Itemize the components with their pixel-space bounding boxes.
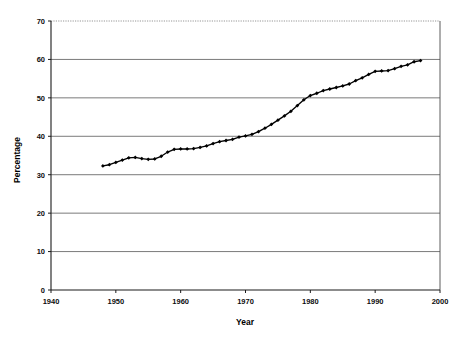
data-point-marker [211,142,215,146]
series-markers-percentage [101,59,422,168]
data-point-marker [237,135,241,139]
data-point-marker [198,146,202,150]
x-tick-label-2000: 2000 [432,297,449,306]
data-point-marker [386,69,390,73]
data-point-marker [218,140,222,144]
y-tick-label-50: 50 [37,94,45,103]
data-point-marker [244,134,248,138]
y-tick-label-40: 40 [37,132,45,141]
x-tick-label-1960: 1960 [172,297,189,306]
data-point-marker [114,161,118,165]
x-tick-label-1940: 1940 [43,297,60,306]
x-axis-ticks: 1940195019601970198019902000 [43,290,449,306]
y-tick-label-0: 0 [41,286,45,295]
x-tick-label-1970: 1970 [237,297,254,306]
data-point-marker [140,157,144,161]
data-point-marker [380,69,384,73]
data-point-marker [341,84,345,88]
data-point-marker [179,147,183,151]
data-point-marker [334,86,338,90]
data-point-marker [399,64,403,68]
x-tick-label-1980: 1980 [302,297,319,306]
data-point-marker [172,147,176,151]
data-point-marker [328,87,332,91]
y-tick-label-10: 10 [37,247,45,256]
data-point-marker [231,137,235,141]
data-point-marker [153,157,157,161]
series-line-percentage [103,61,421,166]
y-axis-ticks: 010203040506070 [37,17,51,295]
y-tick-label-70: 70 [37,17,45,26]
x-axis-title: Year [236,317,255,327]
data-point-marker [185,147,189,151]
data-point-marker [393,67,397,71]
y-tick-label-20: 20 [37,209,45,218]
data-point-marker [321,89,325,93]
line-chart: 010203040506070 194019501960197019801990… [0,0,473,345]
gridlines [51,59,440,251]
data-point-marker [250,132,254,136]
y-axis-title: Percentage [12,137,22,183]
x-tick-label-1990: 1990 [367,297,384,306]
y-tick-label-30: 30 [37,171,45,180]
data-point-marker [192,147,196,151]
data-point-marker [107,163,111,167]
x-tick-label-1950: 1950 [107,297,124,306]
data-point-marker [315,91,319,95]
data-point-marker [205,144,209,148]
data-point-marker [133,156,137,160]
y-tick-label-60: 60 [37,55,45,64]
data-point-marker [101,164,105,168]
chart-figure: 010203040506070 194019501960197019801990… [0,0,473,345]
data-point-marker [127,156,131,160]
data-point-marker [120,158,124,162]
data-point-marker [224,139,228,143]
data-point-marker [146,157,150,161]
